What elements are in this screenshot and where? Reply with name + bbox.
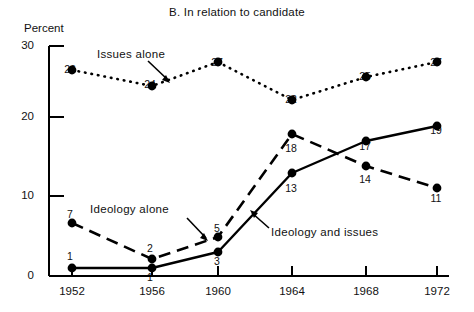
data-point bbox=[288, 130, 297, 139]
chart-figure: B. In relation to candidate Percent 30 2… bbox=[0, 0, 474, 312]
data-point bbox=[433, 58, 442, 67]
series-issues-alone bbox=[68, 58, 442, 105]
data-point bbox=[148, 255, 157, 264]
axis-lines bbox=[49, 46, 449, 276]
data-point bbox=[288, 96, 297, 105]
data-point bbox=[214, 233, 223, 242]
data-point bbox=[433, 122, 442, 131]
data-point bbox=[68, 219, 77, 228]
data-point bbox=[148, 264, 157, 273]
data-point bbox=[362, 73, 371, 82]
series-ideology-and-issues bbox=[68, 122, 442, 273]
data-point bbox=[214, 58, 223, 67]
y-axis-ticks bbox=[49, 46, 64, 196]
data-point bbox=[214, 248, 223, 257]
annotation-arrows bbox=[148, 61, 269, 241]
plot-area bbox=[0, 0, 474, 312]
data-point bbox=[68, 264, 77, 273]
data-point bbox=[433, 184, 442, 193]
data-point bbox=[68, 66, 77, 75]
data-point bbox=[362, 137, 371, 146]
series-ideology-alone bbox=[68, 130, 442, 264]
data-point bbox=[362, 162, 371, 171]
data-point bbox=[288, 169, 297, 178]
data-point bbox=[148, 82, 157, 91]
